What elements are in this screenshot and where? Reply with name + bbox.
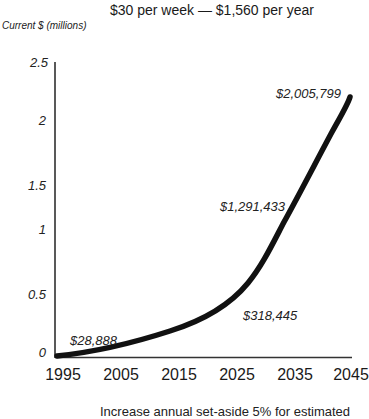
x-tick-2005: 2005 bbox=[96, 366, 146, 384]
y-tick-1-5: 1.5 bbox=[10, 178, 46, 193]
x-tick-2015: 2015 bbox=[154, 366, 204, 384]
x-tick-2035: 2035 bbox=[270, 366, 320, 384]
annotation-2005799: $2,005,799 bbox=[276, 86, 341, 101]
x-tick-1995: 1995 bbox=[38, 366, 88, 384]
y-tick-2: 2 bbox=[10, 113, 46, 128]
annotation-1291433: $1,291,433 bbox=[220, 199, 285, 214]
annotation-28888: $28,888 bbox=[70, 333, 117, 348]
y-tick-2-5: 2.5 bbox=[12, 55, 48, 70]
y-tick-1: 1 bbox=[10, 222, 46, 237]
footnote: Increase annual set-aside 5% for estimat… bbox=[100, 404, 350, 419]
y-tick-0: 0 bbox=[10, 345, 46, 360]
x-tick-2025: 2025 bbox=[212, 366, 262, 384]
annotation-318445: $318,445 bbox=[243, 308, 297, 323]
y-tick-0-5: 0.5 bbox=[10, 287, 46, 302]
x-tick-2045: 2045 bbox=[326, 366, 369, 384]
savings-curve bbox=[57, 97, 350, 356]
